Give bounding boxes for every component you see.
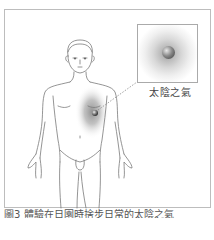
figure-caption: 圖3 體驗在日園時捨步日常的太陰之氣: [4, 209, 174, 218]
head-outline: [68, 40, 93, 73]
taiyin-qi-orb: [92, 110, 98, 116]
magnified-orb-icon: [162, 46, 175, 59]
left-hand: [28, 154, 41, 178]
inset-magnified-view: [137, 24, 198, 83]
inset-label: 太陰之氣: [149, 84, 191, 99]
right-hand: [119, 154, 132, 178]
chest-shading: [75, 85, 109, 139]
torso-outline: [36, 82, 70, 154]
